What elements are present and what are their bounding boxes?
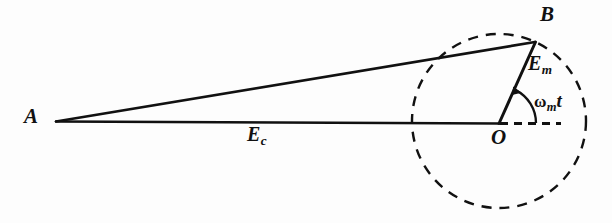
modulation-amplitude-subscript: m [541, 62, 552, 77]
modulation-amplitude-label: Em [528, 53, 552, 76]
angle-label: ωmt [534, 91, 562, 113]
point-label-a: A [24, 106, 38, 127]
omega-symbol: ω [534, 92, 546, 111]
modulation-amplitude-symbol: E [528, 52, 541, 74]
resultant-vector-line [56, 42, 535, 122]
carrier-vector-line [56, 122, 499, 124]
angle-arc [516, 90, 536, 123]
time-symbol: t [556, 90, 561, 111]
point-label-b: B [540, 4, 554, 25]
point-label-o: O [491, 127, 506, 148]
omega-subscript: m [546, 100, 556, 114]
phasor-diagram-svg [0, 0, 612, 223]
carrier-amplitude-symbol: E [247, 123, 260, 145]
carrier-amplitude-subscript: c [260, 133, 266, 148]
carrier-amplitude-label: Ec [247, 124, 267, 147]
figure-canvas: A B O Ec Em ωmt [0, 0, 612, 223]
